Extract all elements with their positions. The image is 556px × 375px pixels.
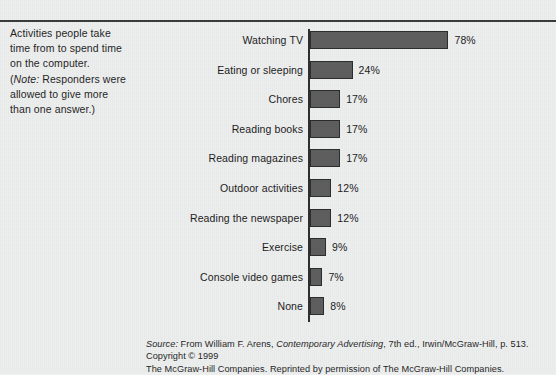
bar bbox=[310, 238, 326, 256]
source-line-2: The McGraw-Hill Companies. Reprinted by … bbox=[146, 363, 550, 375]
category-label: None bbox=[277, 299, 303, 313]
source-book-title: Contemporary Advertising bbox=[276, 339, 383, 349]
category-label: Watching TV bbox=[242, 33, 303, 47]
bar bbox=[310, 31, 448, 49]
chart-row: None8% bbox=[0, 296, 556, 316]
chart-row: Outdoor activities12% bbox=[0, 178, 556, 198]
bar bbox=[310, 149, 340, 167]
source-note: Source: From William F. Arens, Contempor… bbox=[146, 338, 550, 375]
bar-value-label: 17% bbox=[346, 122, 367, 136]
category-label: Outdoor activities bbox=[220, 181, 303, 195]
bar bbox=[310, 209, 331, 227]
bar-value-label: 12% bbox=[337, 181, 358, 195]
bar bbox=[310, 179, 331, 197]
chart-row: Reading the newspaper12% bbox=[0, 208, 556, 228]
bar-value-label: 8% bbox=[330, 299, 345, 313]
chart-row: Console video games7% bbox=[0, 267, 556, 287]
category-label: Reading magazines bbox=[208, 151, 303, 165]
category-label: Exercise bbox=[262, 240, 303, 254]
bar-chart: Watching TV78%Eating or sleeping24%Chore… bbox=[0, 0, 556, 340]
bar-value-label: 24% bbox=[359, 63, 380, 77]
chart-row: Reading magazines17% bbox=[0, 148, 556, 168]
bar-value-label: 12% bbox=[337, 211, 358, 225]
bar bbox=[310, 297, 324, 315]
chart-row: Reading books17% bbox=[0, 119, 556, 139]
chart-row: Watching TV78% bbox=[0, 30, 556, 50]
category-label: Reading the newspaper bbox=[190, 211, 303, 225]
source-label: Source: bbox=[146, 339, 178, 349]
bar bbox=[310, 120, 340, 138]
bar bbox=[310, 90, 340, 108]
chart-row: Eating or sleeping24% bbox=[0, 60, 556, 80]
bar-value-label: 7% bbox=[328, 270, 343, 284]
bar-value-label: 17% bbox=[346, 151, 367, 165]
category-label: Eating or sleeping bbox=[217, 63, 303, 77]
category-label: Console video games bbox=[200, 270, 303, 284]
bar-value-label: 9% bbox=[332, 240, 347, 254]
bar-value-label: 78% bbox=[454, 33, 475, 47]
category-label: Reading books bbox=[232, 122, 303, 136]
chart-row: Exercise9% bbox=[0, 237, 556, 257]
bar bbox=[310, 61, 353, 79]
bar-value-label: 17% bbox=[346, 92, 367, 106]
category-label: Chores bbox=[269, 92, 303, 106]
bar bbox=[310, 268, 322, 286]
chart-row: Chores17% bbox=[0, 89, 556, 109]
source-part-1: From William F. Arens, bbox=[178, 339, 276, 349]
